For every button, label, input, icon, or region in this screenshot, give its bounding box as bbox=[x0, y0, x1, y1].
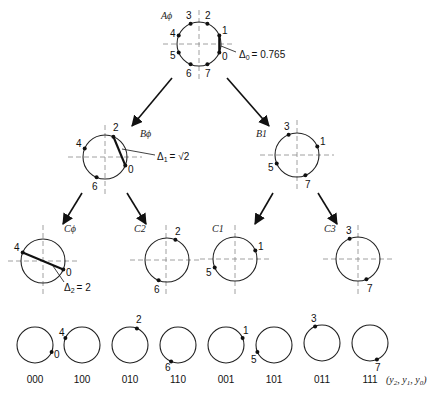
leaf-circle bbox=[352, 325, 388, 361]
point-7 bbox=[205, 62, 209, 66]
leaf-point-label: 2 bbox=[136, 314, 142, 325]
leaf-code: 001 bbox=[218, 374, 235, 385]
node-a-phi: 0 1 2 3 4 5 6 7 Aϕ Δ0= 0.765 bbox=[160, 10, 286, 80]
point-0 bbox=[61, 267, 65, 271]
subset-label: Aϕ bbox=[160, 10, 172, 21]
point-4 bbox=[177, 34, 181, 38]
leaf-circle bbox=[64, 327, 100, 363]
subset-label: C3 bbox=[324, 223, 336, 234]
point-2 bbox=[173, 238, 177, 242]
point-7 bbox=[375, 358, 379, 362]
subset-label: C2 bbox=[134, 223, 146, 234]
point-0 bbox=[217, 50, 221, 54]
leaf-110: 6 110 bbox=[160, 327, 196, 385]
arrow-b1-to-c1 bbox=[255, 193, 273, 224]
leaf-code: 100 bbox=[74, 374, 91, 385]
point-3 bbox=[287, 133, 291, 137]
node-c-1: 1 5 C1 bbox=[200, 223, 270, 297]
point-label-5: 5 bbox=[170, 50, 176, 61]
point-label-2: 2 bbox=[205, 10, 211, 21]
point-label-0: 0 bbox=[66, 267, 72, 278]
leaf-point-label: 5 bbox=[251, 354, 257, 365]
arrow-b1-to-c3 bbox=[318, 193, 337, 224]
point-label-1: 1 bbox=[222, 25, 228, 36]
point-1 bbox=[253, 249, 257, 253]
delta2-label: Δ2= 2 bbox=[64, 282, 91, 294]
leaf-code: 101 bbox=[266, 374, 283, 385]
point-label-5: 5 bbox=[268, 162, 274, 173]
point-label-6: 6 bbox=[92, 181, 98, 192]
arrow-a-to-b0 bbox=[132, 78, 172, 126]
leaf-011: 3 011 bbox=[304, 313, 340, 385]
delta0-label: Δ0= 0.765 bbox=[239, 49, 286, 61]
point-7 bbox=[303, 173, 307, 177]
leaf-circle bbox=[17, 327, 53, 363]
point-label-0: 0 bbox=[128, 164, 134, 175]
leaf-100: 4 100 bbox=[59, 327, 100, 385]
leaf-001: 1 001 bbox=[208, 325, 249, 385]
point-4 bbox=[83, 147, 87, 151]
set-partition-diagram: 0 1 2 3 4 5 6 7 Aϕ Δ0= 0.765 0 2 4 6 Bϕ … bbox=[0, 0, 430, 398]
leaf-point-label: 3 bbox=[311, 313, 317, 324]
point-label-7: 7 bbox=[367, 283, 373, 294]
point-label-4: 4 bbox=[170, 28, 176, 39]
leaf-point-label: 1 bbox=[243, 325, 249, 336]
subset-label: Bϕ bbox=[140, 128, 151, 139]
leaf-code: 010 bbox=[122, 374, 139, 385]
node-c-3: 3 7 C3 bbox=[323, 223, 393, 297]
leaf-101: 5 101 bbox=[251, 327, 292, 385]
point-label-6: 6 bbox=[154, 284, 160, 295]
leaf-code: 011 bbox=[314, 374, 330, 385]
leaf-circle bbox=[256, 327, 292, 363]
leaf-code: 000 bbox=[27, 374, 44, 385]
point-6 bbox=[157, 278, 161, 282]
subset-label: B1 bbox=[256, 128, 267, 139]
point-5 bbox=[177, 50, 181, 54]
point-label-6: 6 bbox=[186, 68, 192, 79]
leaf-code: 111 bbox=[362, 374, 378, 385]
arrow-b0-to-c0 bbox=[63, 193, 82, 224]
point-label-3: 3 bbox=[186, 10, 192, 21]
leaf-circle bbox=[160, 327, 196, 363]
leaf-circle bbox=[112, 327, 148, 363]
leaf-point-label: 6 bbox=[165, 362, 171, 373]
point-6 bbox=[95, 175, 99, 179]
leaf-point-label: 0 bbox=[54, 349, 60, 360]
leaf-circle bbox=[304, 325, 340, 361]
point-2 bbox=[111, 135, 115, 139]
point-label-4: 4 bbox=[76, 138, 82, 149]
point-1 bbox=[315, 145, 319, 149]
point-label-0: 0 bbox=[222, 51, 228, 62]
point-label-4: 4 bbox=[14, 242, 20, 253]
point-label-3: 3 bbox=[284, 121, 290, 132]
point-4 bbox=[21, 251, 25, 255]
point-label-1: 1 bbox=[258, 241, 264, 252]
point-label-3: 3 bbox=[346, 225, 352, 236]
point-3 bbox=[313, 324, 317, 328]
point-5 bbox=[213, 265, 217, 269]
leaf-010: 2 010 bbox=[112, 314, 148, 385]
leaf-000: 0 000 bbox=[17, 327, 60, 385]
leaf-code: 110 bbox=[170, 374, 186, 385]
leaf-point-label: 7 bbox=[375, 362, 381, 373]
leaf-111: 7 111 bbox=[352, 325, 388, 385]
point-label-5: 5 bbox=[206, 267, 212, 278]
point-1 bbox=[241, 336, 245, 340]
point-label-2: 2 bbox=[175, 226, 181, 237]
point-0 bbox=[123, 163, 127, 167]
point-label-1: 1 bbox=[320, 136, 326, 147]
point-3 bbox=[348, 237, 352, 241]
node-b-1: 1 3 5 7 B1 bbox=[256, 120, 334, 190]
node-c-2: 2 6 C2 bbox=[130, 223, 202, 297]
delta1-label: Δ1= √2 bbox=[157, 151, 190, 163]
point-3 bbox=[189, 22, 193, 26]
node-c-phi: 0 4 Cϕ Δ2= 2 bbox=[8, 223, 91, 297]
subset-label: Cϕ bbox=[64, 223, 76, 234]
point-1 bbox=[217, 34, 221, 38]
arrow-b0-to-c2 bbox=[127, 193, 146, 224]
point-label-2: 2 bbox=[113, 122, 119, 133]
point-2 bbox=[205, 22, 209, 26]
point-2 bbox=[135, 326, 139, 330]
leaf-point-label: 4 bbox=[59, 327, 65, 338]
point-5 bbox=[275, 161, 279, 165]
